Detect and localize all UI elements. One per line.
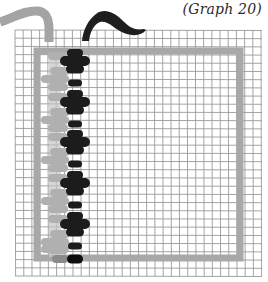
light-yarn-tail — [0, 11, 49, 42]
stitch-graph — [0, 0, 268, 282]
light-stitch-column — [41, 52, 70, 263]
dark-yarn-tail — [82, 11, 146, 41]
